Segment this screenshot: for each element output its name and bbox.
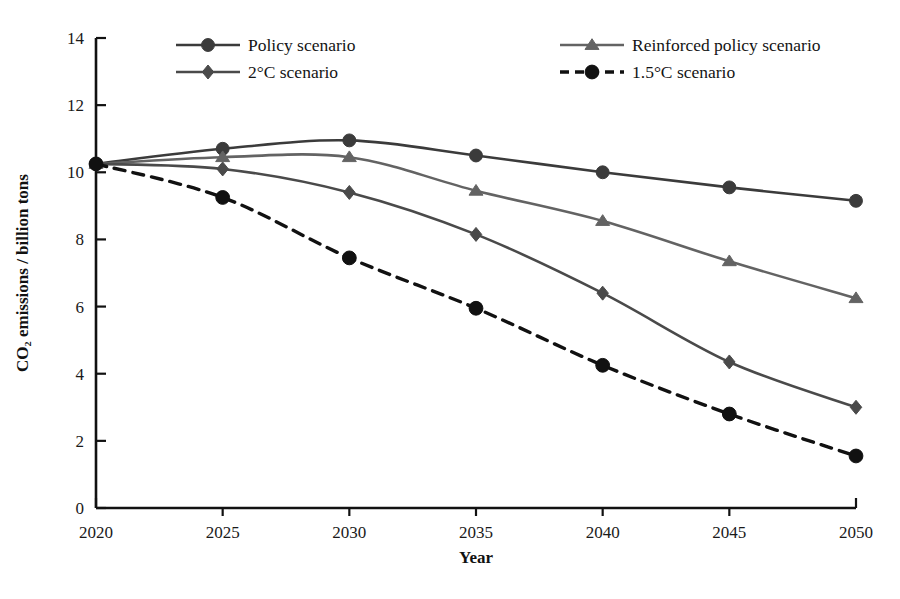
y-axis-tick-label: 10 — [67, 163, 84, 182]
y-axis-ticks — [96, 38, 106, 508]
data-point-marker — [216, 191, 230, 205]
x-axis-tick-labels: 2020202520302035204020452050 — [79, 523, 873, 542]
chart-legend: Policy scenario2°C scenarioReinforced po… — [176, 35, 821, 82]
y-axis-tick-label: 0 — [76, 499, 85, 518]
legend-label: Policy scenario — [248, 35, 356, 55]
series-1-5-c-scenario — [89, 157, 863, 463]
legend-label: 2°C scenario — [248, 62, 338, 82]
x-axis-tick-label: 2020 — [79, 523, 113, 542]
y-axis-title: CO₂ emissions / billion tons — [13, 174, 32, 372]
co2-emissions-line-chart: 02468101214 2020202520302035204020452050… — [0, 0, 900, 575]
data-point-marker — [470, 227, 481, 241]
data-point-marker — [597, 286, 608, 300]
series-line — [96, 164, 856, 407]
x-axis-tick-label: 2050 — [839, 523, 873, 542]
legend-item-1-5-c-scenario[interactable]: 1.5°C scenario — [560, 62, 735, 82]
axes-group — [96, 38, 856, 516]
y-axis-tick-labels: 02468101214 — [67, 29, 85, 518]
figure-container: 02468101214 2020202520302035204020452050… — [0, 0, 900, 599]
data-point-marker — [202, 39, 215, 52]
data-point-marker — [342, 251, 356, 265]
data-point-marker — [469, 301, 483, 315]
data-point-marker — [724, 355, 735, 369]
data-point-marker — [596, 166, 609, 179]
data-point-marker — [850, 400, 861, 414]
data-point-marker — [596, 358, 610, 372]
series-policy-scenario — [90, 134, 863, 207]
x-axis-tick-label: 2045 — [712, 523, 746, 542]
data-series-group — [89, 134, 863, 463]
x-axis-tick-label: 2030 — [332, 523, 366, 542]
y-axis-tick-label: 8 — [76, 230, 85, 249]
data-point-marker — [849, 449, 863, 463]
data-point-marker — [850, 194, 863, 207]
data-point-marker — [722, 407, 736, 421]
legend-label: Reinforced policy scenario — [632, 35, 821, 55]
legend-label: 1.5°C scenario — [632, 62, 735, 82]
y-axis-tick-label: 6 — [76, 298, 85, 317]
x-axis-title: Year — [459, 548, 493, 567]
data-point-marker — [217, 162, 228, 176]
x-axis-tick-label: 2025 — [206, 523, 240, 542]
series-line — [96, 154, 856, 298]
x-axis-tick-label: 2040 — [586, 523, 620, 542]
data-point-marker — [723, 181, 736, 194]
data-point-marker — [202, 65, 213, 79]
data-point-marker — [470, 149, 483, 162]
y-axis-tick-label: 12 — [67, 96, 84, 115]
y-axis-tick-label: 4 — [76, 365, 85, 384]
data-point-marker — [585, 65, 599, 79]
legend-item-policy-scenario[interactable]: Policy scenario — [176, 35, 356, 55]
data-point-marker — [344, 185, 355, 199]
legend-item-reinforced-policy-scenario[interactable]: Reinforced policy scenario — [560, 35, 821, 55]
y-axis-tick-label: 14 — [67, 29, 85, 48]
data-point-marker — [343, 134, 356, 147]
x-axis-tick-label: 2035 — [459, 523, 493, 542]
data-point-marker — [89, 157, 103, 171]
legend-item-2-c-scenario[interactable]: 2°C scenario — [176, 62, 338, 82]
y-axis-tick-label: 2 — [76, 432, 85, 451]
